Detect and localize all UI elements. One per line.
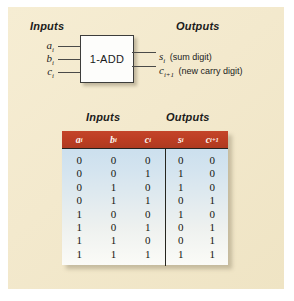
table-cell: 0 (145, 234, 151, 247)
diagram-input-label-c: ci (38, 65, 54, 80)
table-cell: 1 (145, 194, 151, 207)
body-group-inputs: 00001111 00110011 01010101 (62, 149, 165, 266)
block-diagram: Inputs Outputs ai bi ci 1-ADD si (sum di… (8, 7, 284, 111)
header-group-outputs: si ci+1 (165, 131, 228, 148)
table-cell: 0 (76, 167, 82, 180)
column-header-a: ai (62, 131, 96, 148)
table-cell: 0 (145, 208, 151, 221)
column-header-c: ci (131, 131, 165, 148)
table-cell: 1 (210, 234, 216, 247)
table-cell: 0 (76, 181, 82, 194)
figure-panel: Inputs Outputs ai bi ci 1-ADD si (sum di… (8, 7, 284, 289)
table-cell: 0 (178, 234, 184, 247)
truth-table-header-row: ai bi ci si ci+1 (62, 131, 228, 149)
column-values-c: 01010101 (131, 149, 165, 266)
table-cell: 1 (76, 234, 82, 247)
column-header-carry-out: ci+1 (197, 131, 229, 148)
table-cell: 1 (210, 221, 216, 234)
wire-output-s (132, 52, 156, 53)
wire-input-a (58, 46, 80, 47)
wire-input-c (58, 72, 80, 73)
body-group-outputs: 01101001 00010111 (165, 149, 228, 266)
table-cell: 1 (111, 194, 117, 207)
table-cell: 1 (76, 208, 82, 221)
wire-input-b (58, 59, 80, 60)
table-cell: 0 (210, 154, 216, 167)
table-cell: 0 (111, 154, 117, 167)
column-header-s: si (165, 131, 197, 148)
table-cell: 0 (145, 154, 151, 167)
diagram-output-desc-carry: (new carry digit) (179, 66, 243, 76)
table-cell: 0 (210, 181, 216, 194)
table-cell: 1 (76, 248, 82, 261)
table-cell: 1 (111, 234, 117, 247)
table-cell: 1 (178, 208, 184, 221)
table-cell: 1 (145, 167, 151, 180)
table-cell: 1 (145, 248, 151, 261)
table-caption-inputs: Inputs (86, 111, 120, 123)
column-header-b: bi (96, 131, 130, 148)
column-values-b: 00110011 (96, 149, 130, 266)
table-cell: 1 (210, 194, 216, 207)
truth-table: ai bi ci si ci+1 00001111 00110011 01010… (62, 131, 228, 265)
wire-output-carry (132, 66, 156, 67)
table-cell: 0 (178, 154, 184, 167)
table-cell: 1 (145, 221, 151, 234)
table-cell: 1 (76, 221, 82, 234)
table-cell: 0 (111, 208, 117, 221)
table-cell: 0 (178, 221, 184, 234)
adder-block-label: 1-ADD (90, 53, 125, 65)
inputs-outputs-divider (165, 149, 166, 266)
column-values-a: 00001111 (62, 149, 96, 266)
diagram-output-label-carry: ci+1 (new carry digit) (159, 60, 243, 79)
table-cell: 0 (76, 154, 82, 167)
figure-full-adder: Inputs Outputs ai bi ci 1-ADD si (sum di… (0, 0, 294, 301)
table-cell: 1 (111, 181, 117, 194)
table-cell: 1 (178, 248, 184, 261)
table-cell: 0 (210, 167, 216, 180)
table-captions: Inputs Outputs (8, 111, 284, 129)
diagram-inputs-heading: Inputs (30, 20, 64, 32)
diagram-outputs-heading: Outputs (176, 20, 220, 32)
table-cell: 1 (178, 181, 184, 194)
adder-block: 1-ADD (80, 35, 134, 83)
table-caption-outputs: Outputs (166, 111, 210, 123)
table-cell: 0 (178, 194, 184, 207)
truth-table-body: 00001111 00110011 01010101 01101001 0001… (62, 149, 228, 266)
table-cell: 1 (111, 248, 117, 261)
column-values-s: 01101001 (165, 149, 197, 266)
header-group-inputs: ai bi ci (62, 131, 165, 148)
table-cell: 0 (111, 167, 117, 180)
table-cell: 0 (111, 221, 117, 234)
table-cell: 0 (76, 194, 82, 207)
table-cell: 1 (178, 167, 184, 180)
table-cell: 0 (210, 208, 216, 221)
column-values-carry-out: 00010111 (197, 149, 229, 266)
table-cell: 1 (210, 248, 216, 261)
table-cell: 0 (145, 181, 151, 194)
